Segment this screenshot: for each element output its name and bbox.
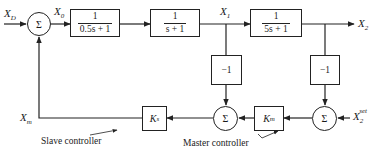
gain-value: −1 [320, 65, 330, 75]
ks-sub: s [156, 115, 159, 123]
numerator: 1 [171, 12, 180, 22]
signal-x1-label: X1 [220, 6, 230, 20]
x0-sub: 0 [61, 12, 65, 20]
slave-controller-caption: Slave controller [41, 137, 101, 147]
xm-sub: m [27, 118, 32, 126]
transfer-fraction: 1 s + 1 [164, 12, 187, 35]
sigma-icon: Σ [36, 19, 42, 30]
numerator: 1 [91, 12, 100, 22]
x1-sub: 1 [227, 12, 231, 20]
denominator: 5s + 1 [262, 25, 289, 35]
slave-controller-block: Ks [142, 106, 167, 131]
denominator: s + 1 [164, 25, 187, 35]
ks-base: K [150, 113, 157, 124]
xm-base: X [20, 111, 27, 123]
transfer-fraction: 1 5s + 1 [262, 12, 289, 35]
signal-xd-label: XD [4, 8, 16, 22]
signal-x2set-label: X2set [353, 110, 367, 125]
sigma-icon: Σ [322, 113, 328, 124]
xd-sub: D [11, 14, 16, 22]
x2-base: X [358, 17, 365, 29]
numerator: 1 [272, 12, 281, 22]
denominator: 0.5s + 1 [78, 25, 112, 35]
master-controller-caption: Master controller [183, 139, 249, 149]
transfer-block-3: 1 5s + 1 [250, 9, 302, 37]
gain-block-x1-feedback: −1 [211, 55, 242, 85]
signal-xm-label: Xm [20, 112, 32, 126]
sigma-icon: Σ [223, 113, 229, 124]
gain-value: −1 [221, 65, 231, 75]
summing-junction-inner: Σ [27, 12, 51, 36]
km-base: K [263, 113, 270, 124]
transfer-block-1: 1 0.5s + 1 [70, 9, 120, 37]
master-controller-block: Km [254, 106, 284, 131]
km-sub: m [270, 115, 275, 123]
transfer-fraction: 1 0.5s + 1 [78, 12, 112, 35]
x1-base: X [220, 5, 227, 17]
signal-x0-label: X0 [54, 6, 64, 20]
x2-sub: 2 [365, 24, 369, 32]
transfer-block-2: 1 s + 1 [150, 9, 200, 37]
x0-base: X [54, 5, 61, 17]
summing-junction-master: Σ [312, 106, 337, 131]
x2set-sup: set [359, 107, 367, 115]
xd-base: X [4, 7, 11, 19]
signal-x2-label: X2 [358, 18, 368, 32]
x2set-sub: 2 [360, 117, 364, 125]
summing-junction-slave: Σ [213, 106, 238, 131]
gain-block-x2-feedback: −1 [310, 55, 340, 85]
